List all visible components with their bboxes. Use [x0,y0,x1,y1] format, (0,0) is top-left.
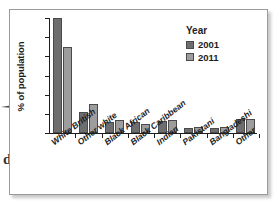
legend-swatch [186,53,194,61]
legend-entries: 20012011 [186,40,219,62]
bar [158,121,167,133]
bar-group [233,18,259,133]
y-tick-label-wrap: 60 [0,18,49,19]
legend-entry: 2001 [186,40,219,50]
bar [246,119,255,133]
x-tick-mark [180,134,181,138]
bar [79,112,88,133]
bar-group [102,18,128,133]
x-tick-mark [207,134,208,138]
bar [115,120,124,133]
bar [89,104,98,133]
legend: Year 20012011 [186,26,219,65]
plot-area [49,18,259,133]
legend-title: Year [186,26,219,36]
bar-chart: % of population 0102030405060 White Brit… [0,0,276,205]
x-tick-mark [102,134,103,138]
x-axis-line [49,133,257,134]
y-tick-label-wrap: 20 [0,95,49,96]
y-tick-label-wrap: 50 [0,37,49,38]
bar [131,122,140,134]
legend-swatch [186,41,194,49]
legend-entry: 2011 [186,53,219,63]
bar-group [154,18,180,133]
bar [141,124,150,133]
y-tick-label-wrap: 40 [0,56,49,57]
bar [63,47,72,133]
y-tick-label-wrap: 30 [0,76,49,77]
bar [194,127,203,133]
x-tick-mark [128,134,129,138]
y-tick-label-wrap: 10 [0,114,49,115]
bar-group [75,18,101,133]
legend-label: 2001 [198,40,219,50]
bar [210,128,219,133]
x-tick-mark [75,134,76,138]
bar [105,122,114,134]
bar [168,120,177,133]
bar-group [128,18,154,133]
x-tick-mark [233,134,234,138]
y-tick-label-wrap: 0 [0,133,49,134]
legend-label: 2011 [198,53,219,63]
bar [53,18,62,133]
figure-screenshot: d % of population 0102030405060 White Br… [0,0,276,205]
x-tick-mark [259,134,260,138]
bar [184,128,193,133]
bar [220,127,229,133]
bar [236,119,245,133]
bar-group [49,18,75,133]
x-tick-mark [154,134,155,138]
